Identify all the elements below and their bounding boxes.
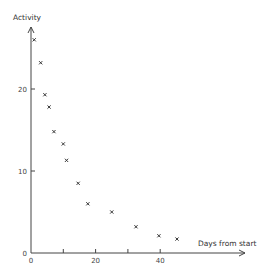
y-tick-label: 20 (18, 86, 27, 94)
x-marker-icon (157, 234, 160, 237)
axes (28, 27, 245, 256)
x-marker-icon (43, 93, 46, 96)
scatter-chart: 0204001020 Activity Days from start (0, 0, 271, 278)
x-tick-label: 0 (29, 257, 33, 265)
x-marker-icon (175, 237, 178, 240)
x-marker-icon (110, 210, 113, 213)
data-points (33, 38, 179, 240)
x-tick-label: 40 (156, 257, 165, 265)
x-marker-icon (52, 130, 55, 133)
x-marker-icon (33, 38, 36, 41)
x-marker-icon (62, 142, 65, 145)
x-marker-icon (134, 225, 137, 228)
y-tick-label: 0 (23, 250, 27, 258)
x-axis-label: Days from start (198, 239, 256, 248)
x-marker-icon (86, 202, 89, 205)
x-marker-icon (47, 105, 50, 108)
y-tick-label: 10 (18, 168, 27, 176)
x-tick-label: 20 (91, 257, 100, 265)
y-axis-label: Activity (13, 13, 42, 22)
axis-ticks: 0204001020 (18, 86, 165, 266)
x-marker-icon (77, 182, 80, 185)
x-marker-icon (65, 159, 68, 162)
x-marker-icon (39, 61, 42, 64)
